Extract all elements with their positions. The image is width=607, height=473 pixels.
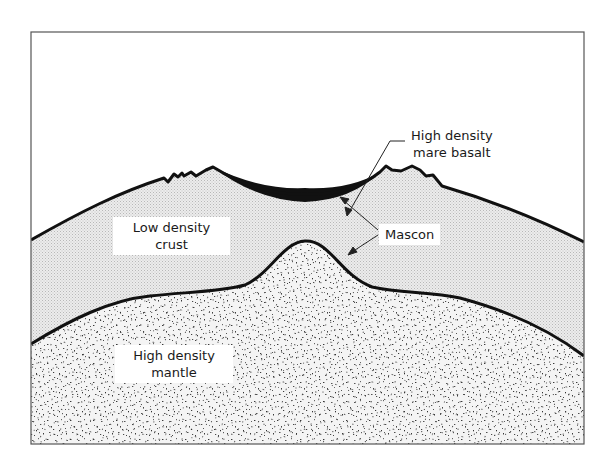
label-line: High density [121, 347, 227, 364]
label-mascon: Mascon [379, 224, 440, 245]
label-line: Mascon [385, 226, 434, 243]
label-line: High density [411, 127, 493, 144]
label-crust: Low density crust [113, 217, 230, 255]
label-line: mantle [121, 364, 227, 381]
label-line: crust [119, 236, 224, 253]
mascon-diagram [0, 0, 607, 473]
label-mare-basalt: High density mare basalt [405, 125, 499, 163]
label-mantle: High density mantle [115, 345, 233, 383]
label-line: Low density [119, 219, 224, 236]
label-line: mare basalt [411, 144, 493, 161]
